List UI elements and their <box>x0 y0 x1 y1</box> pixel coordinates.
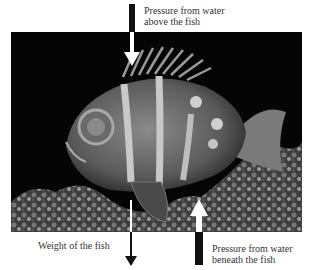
arrow-pressure-below <box>190 199 208 265</box>
label-pressure-above: Pressure from water above the fish <box>144 5 225 27</box>
label-weight: Weight of the fish <box>38 240 110 251</box>
label-pressure-below-line2: beneath the fish <box>212 254 293 265</box>
arrow-pressure-above <box>124 4 140 66</box>
label-pressure-below-line1: Pressure from water <box>212 243 293 254</box>
label-weight-text: Weight of the fish <box>38 240 110 251</box>
label-pressure-above-line2: above the fish <box>144 16 225 27</box>
force-arrows <box>0 0 312 270</box>
label-pressure-below: Pressure from water beneath the fish <box>212 243 293 265</box>
arrow-weight <box>125 200 137 266</box>
label-pressure-above-line1: Pressure from water <box>144 5 225 16</box>
